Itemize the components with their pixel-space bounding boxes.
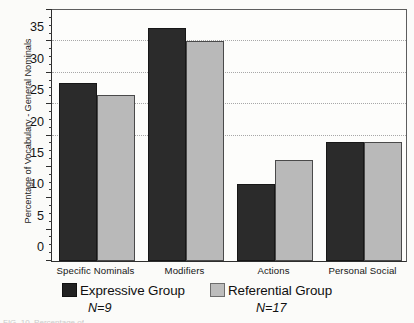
x-axis-label-personal-social: Personal Social xyxy=(328,265,396,276)
y-tick-label-0: 0 xyxy=(37,240,44,254)
bar-referential-group-specific-nominals xyxy=(97,95,135,261)
y-tick-15 xyxy=(46,166,52,167)
y-tick-minor xyxy=(49,33,53,34)
y-tick-minor xyxy=(49,142,53,143)
legend-entry-referential: Referential Group N=17 xyxy=(210,281,332,315)
y-tick-minor xyxy=(49,111,53,112)
y-tick-label-5: 5 xyxy=(37,209,44,223)
y-tick-minor xyxy=(49,158,53,159)
legend: Expressive Group N=9 Referential Group N… xyxy=(62,281,392,323)
y-tick-25 xyxy=(46,103,52,104)
bar-referential-group-personal-social xyxy=(364,142,402,261)
y-tick-minor xyxy=(49,48,53,49)
y-tick-label-40: 40 xyxy=(30,0,44,3)
y-tick-minor xyxy=(49,56,53,57)
y-tick-minor xyxy=(49,189,53,190)
y-tick-label-15: 15 xyxy=(30,146,44,160)
bar-expressive-group-personal-social xyxy=(326,142,364,261)
legend-swatch-referential-icon xyxy=(210,283,225,297)
y-tick-10 xyxy=(46,197,52,198)
x-axis-label-actions: Actions xyxy=(257,265,289,276)
y-tick-0 xyxy=(46,260,52,261)
page-caption-sliver: FIG. 10. Percentage of xyxy=(3,318,84,323)
legend-swatch-expressive-icon xyxy=(62,283,77,297)
y-tick-label-25: 25 xyxy=(30,83,44,97)
y-tick-label-35: 35 xyxy=(30,20,44,34)
bars-layer xyxy=(52,10,406,261)
legend-label-expressive: Expressive Group xyxy=(80,283,185,298)
bar-expressive-group-modifiers xyxy=(148,28,186,261)
y-tick-minor xyxy=(49,119,53,120)
y-tick-minor xyxy=(49,80,53,81)
legend-entry-expressive: Expressive Group N=9 xyxy=(62,281,185,315)
x-axis-label-specific-nominals: Specific Nominals xyxy=(57,265,135,276)
y-tick-minor xyxy=(49,87,53,88)
bar-expressive-group-actions xyxy=(237,184,275,261)
y-tick-minor xyxy=(49,221,53,222)
y-tick-minor xyxy=(49,182,53,183)
y-tick-minor xyxy=(49,244,53,245)
y-tick-30 xyxy=(46,72,52,73)
legend-n-expressive: N=9 xyxy=(88,301,185,315)
x-axis-label-modifiers: Modifiers xyxy=(165,265,205,276)
y-tick-minor xyxy=(49,236,53,237)
y-tick-minor xyxy=(49,252,53,253)
y-tick-minor xyxy=(49,25,53,26)
y-tick-minor xyxy=(49,17,53,18)
y-tick-minor xyxy=(49,127,53,128)
y-tick-minor xyxy=(49,150,53,151)
figure: Percentage of Vocabulary - General Nomin… xyxy=(0,0,414,323)
y-tick-label-30: 30 xyxy=(30,52,44,66)
y-tick-35 xyxy=(46,40,52,41)
bar-expressive-group-specific-nominals xyxy=(59,83,97,261)
y-tick-minor xyxy=(49,174,53,175)
legend-n-referential: N=17 xyxy=(256,301,332,315)
y-tick-minor xyxy=(49,64,53,65)
y-tick-40 xyxy=(46,9,52,10)
y-tick-minor xyxy=(49,205,53,206)
y-tick-20 xyxy=(46,135,52,136)
y-tick-label-10: 10 xyxy=(30,177,44,191)
y-axis-title: Percentage of Vocabulary - General Nomin… xyxy=(23,0,33,263)
legend-label-referential: Referential Group xyxy=(228,283,332,298)
y-tick-label-20: 20 xyxy=(30,115,44,129)
y-tick-minor xyxy=(49,213,53,214)
y-tick-minor xyxy=(49,95,53,96)
bar-referential-group-modifiers xyxy=(186,41,224,261)
plot-area: 0510152025303540 xyxy=(51,9,407,262)
y-tick-5 xyxy=(46,229,52,230)
bar-referential-group-actions xyxy=(275,160,313,261)
